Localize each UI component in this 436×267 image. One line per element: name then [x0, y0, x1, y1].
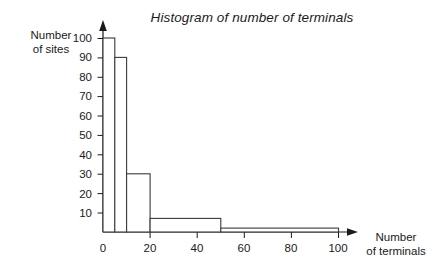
histogram-figure: Histogram of number of terminals Number …: [0, 0, 436, 267]
bar-5-10: [115, 57, 127, 232]
x-axis-arrowhead-icon: [347, 228, 358, 236]
bar-10-20: [127, 174, 151, 232]
bar-50-100: [221, 228, 339, 232]
bar-0-5: [103, 38, 115, 232]
y-axis-ticks: [98, 39, 104, 214]
x-axis-ticks: [150, 232, 338, 238]
bar-20-50: [150, 218, 221, 232]
y-axis-arrowhead-icon: [99, 20, 107, 31]
histogram-bars: [103, 38, 339, 232]
plot-area: [0, 0, 436, 267]
